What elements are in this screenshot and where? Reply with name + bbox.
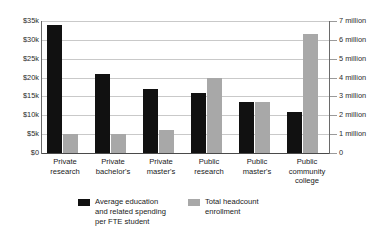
right-axis-tick-label: 7 million: [339, 17, 366, 25]
right-axis-tick-mark: [330, 153, 337, 154]
bar-group: [233, 21, 281, 153]
x-axis-category-line: Private: [41, 157, 89, 167]
bar-enrollment: [111, 134, 126, 153]
bar-enrollment: [255, 102, 270, 153]
x-axis-category-line: Public: [233, 157, 281, 167]
right-axis-tick-label: 0: [339, 149, 343, 157]
x-axis-category-line: master's: [137, 167, 185, 177]
bar-spending: [287, 112, 302, 153]
x-axis-category-line: master's: [233, 167, 281, 177]
left-axis-tick-label: $25k: [23, 55, 39, 63]
x-axis-category-line: Public: [279, 157, 335, 167]
left-axis-tick-label: $30k: [23, 36, 39, 44]
x-axis-category-line: research: [185, 167, 233, 177]
right-axis-tick-label: 3 million: [339, 92, 366, 100]
bar-spending: [191, 93, 206, 153]
x-axis-category-label: Private bachelor's: [89, 157, 137, 176]
right-axis-tick-mark: [330, 21, 337, 22]
x-axis-category-line: community: [279, 167, 335, 177]
bar-spending: [239, 102, 254, 153]
x-axis-category-line: Private: [137, 157, 185, 167]
left-axis-tick-label: $10k: [23, 111, 39, 119]
right-axis-tick-label: 6 million: [339, 36, 366, 44]
x-axis-category-line: Public: [185, 157, 233, 167]
left-axis-tick-label: $15k: [23, 92, 39, 100]
x-axis-category-line: college: [279, 176, 335, 186]
x-axis-category-line: Private: [89, 157, 137, 167]
bar-groups: [41, 21, 329, 153]
bar-enrollment: [63, 134, 78, 153]
x-axis-category-label: Private master's: [137, 157, 185, 176]
left-axis-tick-label: $20k: [23, 74, 39, 82]
legend-item-enrollment: Total headcount enrollment: [188, 197, 259, 217]
right-axis-tick-label: 5 million: [339, 55, 366, 63]
bar-enrollment: [303, 34, 318, 153]
bar-spending: [95, 74, 110, 153]
right-axis-tick-mark: [330, 134, 337, 135]
legend-swatch-icon: [188, 199, 200, 206]
left-axis-tick-label: $5k: [27, 130, 39, 138]
bar-group: [41, 21, 89, 153]
right-axis-tick-mark: [330, 115, 337, 116]
bar-group: [281, 21, 329, 153]
bar-group: [89, 21, 137, 153]
x-axis-category-label: Public community college: [279, 157, 335, 186]
chart-legend: Average education and related spending p…: [78, 197, 259, 226]
right-axis-tick-label: 1 million: [339, 130, 366, 138]
bar-spending: [47, 25, 62, 153]
x-axis-category-line: research: [41, 167, 89, 177]
bar-enrollment: [207, 78, 222, 153]
legend-label-enrollment: Total headcount enrollment: [205, 197, 259, 217]
legend-label-line: Total headcount: [205, 197, 259, 207]
legend-swatch-icon: [78, 199, 90, 206]
legend-label-line: per FTE student: [95, 217, 166, 227]
legend-label-line: and related spending: [95, 207, 166, 217]
bar-group: [185, 21, 233, 153]
x-axis-category-label: Public research: [185, 157, 233, 176]
right-axis-tick-mark: [330, 78, 337, 79]
right-axis-tick-label: 2 million: [339, 111, 366, 119]
left-axis-tick-label: $35k: [23, 17, 39, 25]
right-axis-tick-mark: [330, 96, 337, 97]
x-axis-category-line: bachelor's: [89, 167, 137, 177]
bar-enrollment: [159, 130, 174, 153]
left-axis-tick-label: $0: [31, 149, 39, 157]
legend-label-line: Average education: [95, 197, 166, 207]
x-axis-category-label: Private research: [41, 157, 89, 176]
right-axis-tick-mark: [330, 59, 337, 60]
right-axis-tick-label: 4 million: [339, 74, 366, 82]
legend-label-spending: Average education and related spending p…: [95, 197, 166, 226]
bar-chart: $35k $30k $25k $20k $15k $10k $5k $0 7 m…: [0, 0, 386, 236]
legend-label-line: enrollment: [205, 207, 259, 217]
bar-spending: [143, 89, 158, 153]
right-axis-tick-mark: [330, 40, 337, 41]
axis-baseline: [41, 153, 329, 154]
x-axis-category-label: Public master's: [233, 157, 281, 176]
bar-group: [137, 21, 185, 153]
legend-item-spending: Average education and related spending p…: [78, 197, 166, 226]
